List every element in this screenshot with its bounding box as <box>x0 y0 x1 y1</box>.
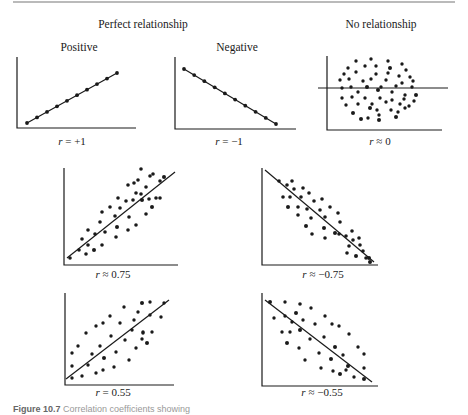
r-label-0-75: r ≈ 0.75 <box>95 268 130 280</box>
r-label-neg-0-75: r ≈ −0.75 <box>302 268 343 280</box>
r-label-no-relationship: r ≈ 0 <box>369 135 390 147</box>
plot-r-0-75 <box>64 167 178 265</box>
plot-no-relationship <box>318 56 448 130</box>
plot-r-0-55 <box>65 293 174 385</box>
r-label-neg-0-55: r ≈ −0.55 <box>301 386 342 398</box>
section-title-none: No relationship <box>345 18 416 30</box>
r-label-perfect-negative: r = −1 <box>215 135 243 147</box>
subtitle-negative: Negative <box>216 41 258 53</box>
r-label-perfect-positive: r = +1 <box>58 135 86 147</box>
plot-perfect-positive <box>17 57 136 128</box>
plot-r-neg-0-75 <box>262 168 378 265</box>
correlation-figure <box>0 0 468 415</box>
section-title-perfect: Perfect relationship <box>98 18 188 30</box>
plot-perfect-negative <box>175 57 296 129</box>
r-label-0-55: r = 0.55 <box>95 386 130 398</box>
plot-r-neg-0-55 <box>262 293 378 386</box>
figure-caption: Figure 10.7 Correlation coefficients sho… <box>13 404 190 414</box>
subtitle-positive: Positive <box>60 41 97 53</box>
